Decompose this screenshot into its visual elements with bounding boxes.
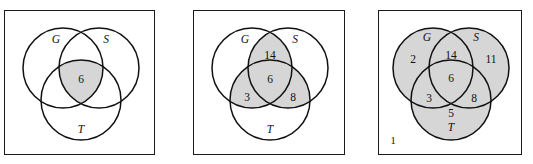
label-s: S [103, 33, 109, 45]
venn-panel-3: G S T 2 11 14 6 3 8 5 1 [378, 10, 522, 155]
label-g: G [423, 31, 432, 43]
label-t: T [267, 123, 275, 135]
value-s-only: 11 [485, 53, 496, 65]
venn-panel-1-svg: G S T 6 [5, 11, 153, 153]
venn-panel-2-svg: G S T 14 6 3 8 [194, 11, 343, 153]
value-gt-only: 3 [244, 91, 250, 103]
value-outside: 1 [390, 135, 395, 146]
venn-panel-2: G S T 14 6 3 8 [193, 10, 345, 155]
value-gs-only: 14 [264, 49, 276, 61]
value-g-only: 2 [410, 53, 416, 65]
venn-panel-1: G S T 6 [4, 10, 155, 155]
value-gs-only: 14 [445, 49, 457, 61]
value-t-only: 5 [448, 107, 454, 119]
value-gst: 6 [448, 72, 454, 84]
label-s: S [473, 31, 479, 43]
label-t: T [78, 123, 86, 135]
value-st-only: 8 [290, 91, 296, 103]
label-g: G [241, 33, 250, 45]
label-g: G [52, 33, 61, 45]
value-st-only: 8 [471, 92, 477, 104]
venn-panel-3-svg: G S T 2 11 14 6 3 8 5 1 [379, 11, 520, 153]
value-gt-only: 3 [426, 92, 432, 104]
label-s: S [292, 33, 298, 45]
venn-diagram-figure: G S T 6 [0, 0, 533, 164]
value-gst: 6 [267, 73, 273, 85]
value-gst: 6 [78, 73, 84, 85]
